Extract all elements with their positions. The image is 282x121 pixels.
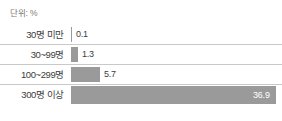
value-label: 1.3 [78,45,94,64]
chart-row: 30명 미만 0.1 [0,25,282,45]
unit-caption: 단위: % [10,6,37,18]
value-label: 36.9 [253,85,270,105]
plot-area: 30명 미만 0.1 30~99명 1.3 100~299명 5.7 [0,25,282,115]
bar-track: 1.3 [71,45,282,64]
bar [71,86,276,104]
category-label: 30명 미만 [0,25,68,44]
category-label: 30~99명 [0,45,68,64]
horizontal-bar-chart: 단위: % 30명 미만 0.1 30~99명 1.3 100~299명 5.7 [0,0,282,121]
bar-track: 0.1 [71,25,282,44]
bar [71,47,78,62]
bar-track: 36.9 [71,85,282,104]
category-label: 300명 이상 [0,85,68,104]
chart-row: 300명 이상 36.9 [0,85,282,105]
chart-row: 100~299명 5.7 [0,65,282,85]
chart-row: 30~99명 1.3 [0,45,282,65]
bar-track: 5.7 [71,65,282,84]
bar [71,67,100,82]
value-label: 5.7 [100,65,116,84]
category-label: 100~299명 [0,65,68,84]
value-label: 0.1 [72,25,88,44]
